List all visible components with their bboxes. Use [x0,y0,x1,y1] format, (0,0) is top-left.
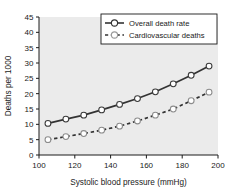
chart-container: 051015202530354045 100120140160180200 Sy… [0,0,230,191]
y-tick-label: 30 [25,59,34,68]
x-tick-label: 180 [176,161,190,170]
x-tick-label: 100 [32,161,46,170]
data-point-marker [45,137,51,143]
x-tick-label: 120 [68,161,82,170]
data-point-marker [81,112,87,118]
data-point-marker [206,89,212,95]
data-point-marker [206,63,212,69]
data-point-marker [63,134,69,140]
data-point-marker [81,131,87,137]
data-point-marker [45,121,51,127]
data-point-marker [63,116,69,122]
chart-legend: Overall death rate Cardiovascular deaths [101,14,217,44]
legend-marker-circle-icon [111,20,117,26]
data-point-marker [99,107,105,113]
legend-label-cardiovascular-deaths: Cardiovascular deaths [129,31,205,40]
x-axis-title: Systolic blood pressure (mmHg) [70,178,187,187]
y-tick-label: 5 [29,136,34,145]
y-tick-label: 45 [25,13,34,22]
data-point-marker [170,106,176,112]
data-point-marker [135,118,141,124]
legend-marker-circle-icon [111,32,117,38]
y-tick-label: 20 [25,90,34,99]
y-tick-label: 25 [25,74,34,83]
data-point-marker [188,72,194,78]
data-point-marker [117,123,123,129]
x-tick-label: 160 [140,161,154,170]
x-tick-label: 200 [211,161,225,170]
x-tick-label: 140 [104,161,118,170]
y-tick-label: 15 [25,105,34,114]
line-chart: 051015202530354045 100120140160180200 Sy… [0,0,230,191]
y-tick-label: 40 [25,28,34,37]
y-tick-label: 0 [29,151,34,160]
data-point-marker [117,102,123,108]
y-tick-label: 10 [25,120,34,129]
data-point-marker [152,89,158,95]
data-point-marker [188,98,194,104]
y-axis-title: Deaths per 1000 [4,55,13,116]
y-tick-label: 35 [25,44,34,53]
legend-label-overall-death-rate: Overall death rate [129,19,189,28]
data-point-marker [170,81,176,87]
data-point-marker [152,112,158,118]
data-point-marker [99,127,105,133]
data-point-marker [135,96,141,102]
